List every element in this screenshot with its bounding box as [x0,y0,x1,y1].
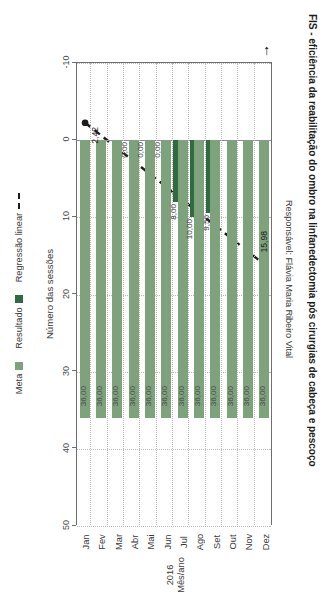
x-axis-tick-label: Fev [98,529,108,555]
bar-meta [96,140,106,418]
y-axis-tick-mark [72,216,76,217]
regression-label-end: 15,98 [259,231,269,253]
bar-value-label-meta: 36,00 [226,386,235,406]
y-axis-tick-label: 20 [61,280,71,308]
bar-value-label-meta: 36,00 [209,386,218,406]
category-separator [254,63,255,525]
plot-area: 36,0036,0036,0036,000,0036,000,0036,000,… [76,62,272,525]
regression-point-start [82,119,89,126]
x-axis-tick-label: Nov [245,529,255,555]
y-axis-tick-mark [72,293,76,294]
bar-value-label-meta: 36,00 [160,386,169,406]
bar-value-label-meta: 36,00 [144,386,153,406]
category-separator [237,63,238,525]
legend-label: Resultado [14,307,24,348]
x-axis-title-year: 2016 [165,553,176,596]
y-axis-title: Número das sessões [44,239,55,349]
y-axis-tick-mark [72,139,76,140]
category-separator [172,63,173,525]
bar-meta [243,140,253,418]
bar-resultado [190,140,194,217]
y-axis-tick-label: 0 [61,125,71,153]
bar-value-label-meta: 36,00 [95,386,104,406]
gridline [77,526,271,527]
legend-dash-icon [18,193,20,209]
bar-meta [129,140,139,418]
x-axis-tick-label: Jan [81,529,91,555]
y-axis-tick-label: -10 [61,48,71,76]
bar-value-label-resultado: 8,00 [169,204,178,220]
bar-value-label-resultado: 10,00 [185,219,194,239]
bar-meta [227,140,237,418]
x-axis-tick-label: Dez [261,529,271,555]
x-axis-tick-label: Set [212,529,222,555]
x-axis-tick-label: Out [228,529,238,555]
bar-value-label-meta: 36,00 [79,386,88,406]
x-axis-title-unit: Mês/ano [175,553,186,596]
bar-resultado [173,140,177,202]
bar-value-label-meta: 36,00 [111,386,120,406]
bar-meta [259,140,269,418]
category-separator [156,63,157,525]
category-separator [107,63,108,525]
bar-value-label-meta: 36,00 [128,386,137,406]
bar-value-label-meta: 36,00 [258,386,267,406]
category-separator [205,63,206,525]
bar-value-label-meta: 36,00 [177,386,186,406]
legend-item[interactable]: Meta [14,362,24,394]
y-axis-tick-mark [72,370,76,371]
x-axis-tick-label: Abr [130,529,140,555]
y-axis-tick-label: 10 [61,202,71,230]
x-axis-tick-label: Jun [163,529,173,555]
bar-meta [194,140,204,418]
y-axis-tick-label: 40 [61,434,71,462]
legend-item[interactable]: Resultado [14,295,24,348]
bar-meta [80,140,90,418]
legend-swatch-icon [15,362,23,370]
chart-title: FIS - eficiência da reabilitação do ombr… [306,14,318,544]
bar-value-label-resultado: 9,50 [202,215,211,231]
x-axis-tick-label: Jul [179,529,189,555]
category-separator [123,63,124,525]
x-axis-title: 2016Mês/ano [165,553,186,596]
bar-meta [145,140,155,418]
y-axis-tick-mark [72,447,76,448]
legend-swatch-icon [15,295,23,303]
category-separator [188,63,189,525]
regression-label-start: 2,42 [90,127,100,144]
bar-value-label-resultado: 0,00 [136,142,145,158]
bar-meta [178,140,188,418]
target-arrow-icon: → [257,44,271,58]
chart-legend: MetaResultadoRegressão linear [10,62,28,525]
y-axis-tick-mark [72,525,76,526]
legend-item[interactable]: Regressão linear [14,193,24,282]
bar-meta [210,140,220,418]
chart-subtitle: Responsável: Flávia Maria Ribeiro Vital [284,14,294,544]
x-axis-tick-label: Mai [147,529,157,555]
legend-label: Regressão linear [14,213,24,282]
bar-value-label-meta: 36,00 [242,386,251,406]
y-axis-tick-mark [72,62,76,63]
bar-value-label-resultado: 0,00 [120,142,129,158]
bar-meta [161,140,171,418]
bar-value-label-meta: 36,00 [193,386,202,406]
bar-meta [112,140,122,418]
category-separator [139,63,140,525]
x-axis-tick-label: Mar [114,529,124,555]
y-axis-tick-label: 30 [61,357,71,385]
bar-resultado [206,140,210,213]
x-axis-tick-label: Ago [196,529,206,555]
category-separator [221,63,222,525]
legend-label: Meta [14,374,24,394]
y-axis-tick-label: 50 [61,511,71,539]
bar-value-label-resultado: 0,00 [153,142,162,158]
